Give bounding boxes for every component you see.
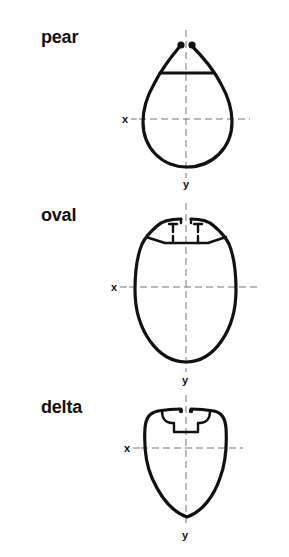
delta-bead-left	[179, 409, 183, 413]
delta-x-label: x	[124, 442, 131, 454]
pear-bead-left	[177, 41, 184, 48]
pear-profile: x y	[122, 30, 250, 190]
oval-profile: x y	[111, 203, 258, 386]
oval-y-label: y	[182, 374, 189, 386]
pear-x-label: x	[122, 113, 129, 125]
oval-x-label: x	[111, 281, 118, 293]
pear-y-label: y	[183, 178, 190, 190]
delta-profile: x y	[124, 395, 243, 541]
pear-outline	[143, 45, 232, 167]
delta-bead-right	[189, 409, 193, 413]
pear-bead-right	[188, 41, 195, 48]
rim-profile-diagram: x y x y x y	[0, 0, 289, 557]
delta-y-label: y	[182, 529, 189, 541]
